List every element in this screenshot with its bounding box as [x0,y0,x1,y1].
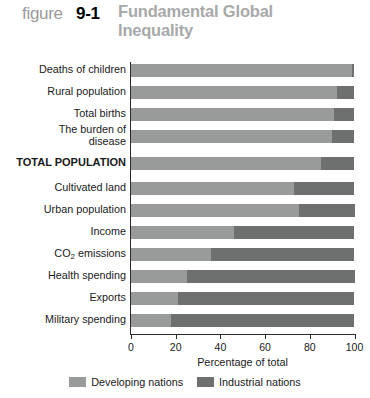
axis-tick [176,334,177,339]
axis-tick-label: 0 [116,341,146,353]
bar-segment-developing [131,130,332,143]
bar-segment-industrial [321,157,355,170]
axis-tick-label: 60 [250,341,280,353]
stacked-bar [131,204,355,217]
bar-segment-developing [131,157,321,170]
bar-segment-industrial [332,130,354,143]
bar-segment-industrial [234,226,355,239]
bar-segment-developing [131,204,299,217]
legend-item: Industrial nations [197,376,301,388]
axis-tick-label: 40 [205,341,235,353]
figure-header: figure 9-1 Fundamental Global Inequality [0,0,370,56]
axis-tick [220,334,221,339]
legend-swatch [69,377,86,387]
bar-segment-developing [131,248,211,261]
figure-number: 9-1 [76,4,100,24]
category-label: CO2 emissions [0,247,126,261]
category-label: TOTAL POPULATION [0,156,126,168]
bar-segment-industrial [337,86,355,99]
stacked-bar [131,157,355,170]
axis-tick-label: 80 [295,341,325,353]
bar-segment-industrial [178,292,355,305]
x-axis-line [130,334,355,335]
bar-segment-developing [131,108,334,121]
stacked-bar [131,314,355,327]
bar-segment-industrial [334,108,354,121]
stacked-bar [131,226,355,239]
axis-tick [265,334,266,339]
bar-segment-industrial [171,314,354,327]
stacked-bar [131,292,355,305]
bar-segment-developing [131,292,178,305]
stacked-bar [131,64,355,77]
axis-tick [310,334,311,339]
category-label: The burden ofdisease [0,123,126,147]
bar-segment-industrial [294,182,354,195]
stacked-bar [131,130,355,143]
stacked-bar [131,108,355,121]
legend-swatch [197,377,214,387]
legend-label: Developing nations [91,376,183,388]
axis-tick [355,334,356,339]
bar-segment-developing [131,270,187,283]
chart-plot-area: Deaths of childrenRural populationTotal … [0,56,370,346]
category-label: Exports [0,291,126,303]
bar-segment-developing [131,314,171,327]
category-label: Total births [0,107,126,119]
stacked-bar [131,86,355,99]
page-title: Fundamental Global Inequality [118,2,348,40]
category-label: Cultivated land [0,181,126,193]
bar-segment-industrial [187,270,355,283]
bar-segment-industrial [299,204,355,217]
stacked-bar [131,270,355,283]
chart-legend: Developing nationsIndustrial nations [0,372,370,392]
legend-item: Developing nations [69,376,183,388]
category-label: Health spending [0,269,126,281]
bar-segment-industrial [211,248,354,261]
category-label: Rural population [0,85,126,97]
stacked-bar [131,248,355,261]
bar-segment-developing [131,226,234,239]
bar-segment-developing [131,64,352,77]
category-label: Income [0,225,126,237]
x-axis-title: Percentage of total [130,356,355,368]
legend-label: Industrial nations [219,376,301,388]
category-label: Deaths of children [0,63,126,75]
figure-word: figure [22,4,63,24]
axis-tick-label: 100 [340,341,370,353]
bar-segment-developing [131,182,294,195]
bar-segment-industrial [352,64,354,77]
category-label: Military spending [0,313,126,325]
category-label: Urban population [0,203,126,215]
axis-tick-label: 20 [161,341,191,353]
stacked-bar [131,182,355,195]
axis-tick [131,334,132,339]
bar-segment-developing [131,86,337,99]
